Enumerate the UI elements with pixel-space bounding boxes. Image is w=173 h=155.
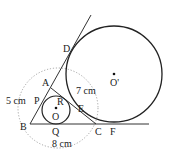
measure-ac: 7 cm xyxy=(76,85,96,96)
label-a: A xyxy=(42,77,50,88)
label-p: P xyxy=(34,95,40,106)
geometry-diagram: D A P R O E B Q C F O' 5 cm 7 cm 8 cm xyxy=(0,0,173,155)
center-oprime-dot xyxy=(113,73,116,76)
diagram-svg: D A P R O E B Q C F O' 5 cm 7 cm 8 cm xyxy=(0,0,173,155)
label-r: R xyxy=(57,96,64,107)
label-oprime: O' xyxy=(110,77,119,88)
label-q: Q xyxy=(52,126,60,137)
label-e: E xyxy=(78,103,84,114)
label-b: B xyxy=(20,121,27,132)
label-f: F xyxy=(110,126,116,137)
label-d: D xyxy=(63,43,70,54)
center-o-dot xyxy=(55,107,58,110)
measure-bc: 8 cm xyxy=(52,138,72,149)
measure-ab: 5 cm xyxy=(6,95,26,106)
label-c: C xyxy=(95,126,102,137)
label-o: O xyxy=(52,111,59,122)
